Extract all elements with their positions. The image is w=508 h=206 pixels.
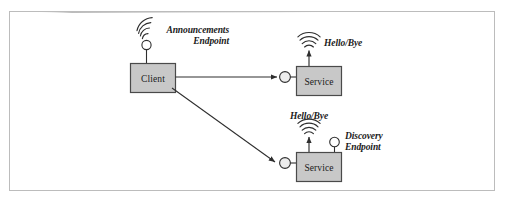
service-top-label: Service xyxy=(304,77,333,87)
announcements-endpoint-label-line1: Announcements xyxy=(165,25,229,35)
socket-bottom-group xyxy=(280,158,297,169)
connection-client-to-service-bottom xyxy=(172,88,275,162)
connector-line-diagonal xyxy=(172,88,275,162)
signal-bottom-group: Hello/Bye xyxy=(289,111,329,152)
signal-top-group: Hello/Bye xyxy=(298,32,363,66)
announcements-endpoint-group: Announcements Endpoint xyxy=(137,18,229,63)
socket-top-group xyxy=(280,72,297,83)
node-client[interactable]: Client xyxy=(131,64,176,93)
announcements-endpoint-label-line2: Endpoint xyxy=(192,36,229,46)
signal-bottom-label: Hello/Bye xyxy=(289,111,329,121)
socket-circle-icon xyxy=(280,72,291,83)
diagram-figure: Announcements Endpoint Client xyxy=(0,0,508,206)
broadcast-wave-icon xyxy=(298,32,320,47)
node-service-bottom[interactable]: Service xyxy=(297,153,342,182)
signal-top-label: Hello/Bye xyxy=(323,38,363,48)
service-bottom-label: Service xyxy=(304,163,333,173)
endpoint-circle-icon xyxy=(330,137,340,147)
broadcast-wave-icon xyxy=(298,119,320,134)
node-service-top[interactable]: Service xyxy=(297,67,342,96)
endpoint-circle-icon xyxy=(142,40,151,49)
diagram-frame xyxy=(10,12,495,191)
client-label: Client xyxy=(141,74,165,84)
discovery-endpoint-label-line1: Discovery xyxy=(344,131,383,141)
discovery-endpoint-label-line2: Endpoint xyxy=(344,142,381,152)
diagram-canvas: Announcements Endpoint Client xyxy=(0,0,508,206)
socket-circle-icon xyxy=(280,158,291,169)
broadcast-wave-icon xyxy=(137,18,152,39)
discovery-endpoint-group: Discovery Endpoint xyxy=(330,131,384,152)
